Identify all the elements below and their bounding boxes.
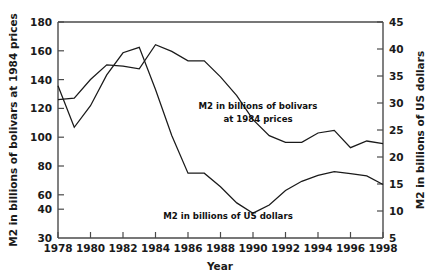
- y-left-label-40: 40: [37, 203, 52, 215]
- annotation-bolivars: M2 in billions of bolivars at 1984 price…: [199, 101, 318, 124]
- x-label-1996: 1996: [336, 242, 365, 254]
- y-axis-left: 180 160 140 120 100 80 60 40 30 M2 in bi…: [7, 13, 64, 247]
- y-right-label-45: 45: [389, 16, 404, 28]
- x-label-1978: 1978: [43, 242, 72, 254]
- chart-container: 180 160 140 120 100 80 60 40 30 M2 in bi…: [0, 0, 433, 276]
- y-axis-right: 45 40 35 30 25 20 15 10 5 M2 in billions…: [377, 16, 426, 244]
- x-label-1984: 1984: [141, 242, 170, 254]
- series-group: [58, 45, 383, 213]
- y-left-label-180: 180: [30, 16, 52, 28]
- annotation-bolivars-line1: M2 in billions of bolivars: [199, 101, 318, 111]
- x-label-1982: 1982: [108, 242, 137, 254]
- y-right-label-35: 35: [389, 70, 404, 82]
- annotation-dollars-line1: M2 in billions of US dollars: [163, 211, 293, 221]
- y-right-label-30: 30: [389, 97, 404, 109]
- x-label-1988: 1988: [206, 242, 235, 254]
- y-right-axis-title: M2 in billions of US dollars: [414, 51, 426, 209]
- y-left-label-140: 140: [30, 74, 52, 86]
- x-ticks: [58, 232, 383, 238]
- y-left-label-100: 100: [30, 131, 52, 143]
- x-label-1990: 1990: [238, 242, 267, 254]
- annotation-bolivars-line2: at 1984 prices: [223, 114, 292, 124]
- y-left-label-80: 80: [37, 160, 52, 172]
- y-left-label-60: 60: [37, 189, 52, 201]
- y-right-label-20: 20: [389, 151, 404, 163]
- x-axis-title: Year: [206, 260, 234, 272]
- x-label-1986: 1986: [173, 242, 202, 254]
- y-left-axis-title: M2 in billions of bolivars at 1984 price…: [7, 13, 19, 247]
- y-right-label-10: 10: [389, 205, 404, 217]
- annotation-dollars: M2 in billions of US dollars: [163, 211, 293, 221]
- x-label-1992: 1992: [271, 242, 300, 254]
- y-left-label-120: 120: [30, 102, 52, 114]
- y-right-label-15: 15: [389, 178, 404, 190]
- line-chart: 180 160 140 120 100 80 60 40 30 M2 in bi…: [0, 0, 433, 276]
- x-label-1980: 1980: [76, 242, 105, 254]
- x-label-1994: 1994: [303, 242, 332, 254]
- y-left-ticks: [58, 22, 64, 209]
- x-label-1998: 1998: [368, 242, 397, 254]
- y-left-label-160: 160: [30, 45, 52, 57]
- y-right-label-25: 25: [389, 124, 404, 136]
- y-right-label-40: 40: [389, 43, 404, 55]
- series-line-bolivars: [58, 45, 383, 148]
